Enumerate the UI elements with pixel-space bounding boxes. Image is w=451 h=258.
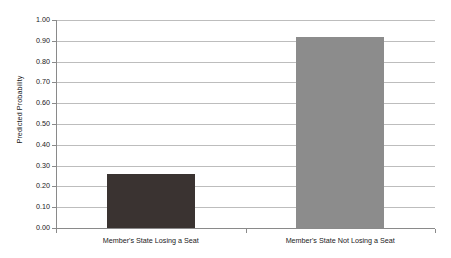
x-axis-tick-mark xyxy=(56,229,57,233)
x-axis-tick-mark xyxy=(435,229,436,233)
gridline xyxy=(56,20,435,21)
y-axis-tick-mark xyxy=(52,186,56,187)
y-axis-tick-label: 0.40 xyxy=(6,140,50,149)
x-axis-category-label: Member's State Not Losing a Seat xyxy=(230,236,450,245)
y-axis-tick-mark xyxy=(52,207,56,208)
y-axis-tick-label: 0.90 xyxy=(6,36,50,45)
y-axis-tick-label: 0.60 xyxy=(6,98,50,107)
x-axis-category-label: Member's State Losing a Seat xyxy=(41,236,261,245)
y-axis-tick-mark xyxy=(52,62,56,63)
y-axis-tick-mark xyxy=(52,20,56,21)
bar-chart: Predicted Probability 0.000.100.200.300.… xyxy=(0,0,451,258)
x-axis-tick-mark xyxy=(246,229,247,233)
y-axis-tick-mark xyxy=(52,82,56,83)
y-axis-tick-labels: 0.000.100.200.300.400.500.600.700.800.90… xyxy=(0,0,50,258)
y-axis-tick-label: 0.00 xyxy=(6,223,50,232)
y-axis-tick-mark xyxy=(52,103,56,104)
bar xyxy=(296,37,384,228)
y-axis-line xyxy=(56,20,57,229)
y-axis-tick-label: 0.30 xyxy=(6,161,50,170)
y-axis-tick-mark xyxy=(52,145,56,146)
y-axis-tick-label: 0.80 xyxy=(6,57,50,66)
y-axis-tick-label: 1.00 xyxy=(6,15,50,24)
y-axis-tick-label: 0.20 xyxy=(6,181,50,190)
y-axis-tick-mark xyxy=(52,124,56,125)
y-axis-tick-label: 0.70 xyxy=(6,77,50,86)
bar xyxy=(107,174,195,228)
y-axis-tick-mark xyxy=(52,41,56,42)
y-axis-tick-label: 0.10 xyxy=(6,202,50,211)
plot-area xyxy=(56,20,435,228)
y-axis-tick-mark xyxy=(52,166,56,167)
y-axis-tick-label: 0.50 xyxy=(6,119,50,128)
